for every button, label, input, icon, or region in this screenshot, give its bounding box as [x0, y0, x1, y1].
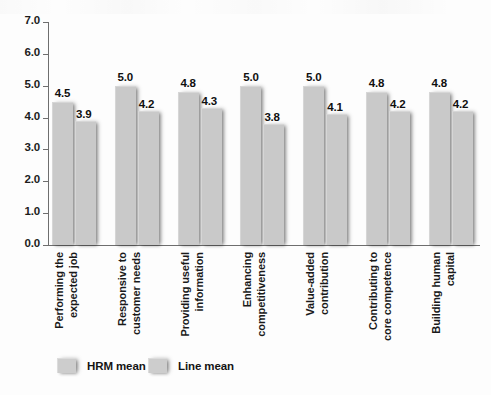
bar-value-label-line-mean: 4.1: [327, 101, 342, 113]
y-axis-tick: 7.0: [48, 22, 49, 23]
bar-group: 4.53.9: [52, 22, 98, 245]
y-axis-tick: 3.0: [48, 149, 49, 150]
bar-line-mean: [138, 111, 159, 245]
bar-line-mean: [75, 121, 96, 245]
y-axis-tick-label: 3.0: [25, 141, 40, 153]
x-axis-category-text: Building human capital: [430, 252, 457, 334]
bar-group: 4.84.3: [178, 22, 224, 245]
y-axis-tick-label: 5.0: [25, 78, 40, 90]
x-axis-category-text: Value-added contribution: [304, 252, 331, 316]
bar-hrm-mean: [303, 86, 324, 245]
y-axis-tick: 0.0: [48, 245, 49, 246]
bar-hrm-mean: [366, 92, 387, 245]
bar-line-mean: [452, 111, 473, 245]
x-axis-category-label: Value-added contribution: [304, 252, 348, 357]
bar-group: 5.04.2: [115, 22, 161, 245]
x-axis-category-label: Responsive to customer needs: [116, 252, 160, 357]
legend-swatch-hrm-mean: [57, 358, 76, 373]
legend-label-line-mean: Line mean: [178, 360, 234, 372]
bar-line-mean: [389, 111, 410, 245]
bar-group: 5.03.8: [240, 22, 286, 245]
bar-value-label-hrm-mean: 5.0: [115, 71, 136, 83]
bar-value-label-line-mean: 3.9: [76, 108, 91, 120]
chart-legend: HRM mean Line mean: [0, 358, 491, 388]
y-axis-tick-label: 4.0: [25, 110, 40, 122]
legend-item-hrm-mean: HRM mean: [57, 358, 146, 373]
bar-value-label-line-mean: 4.3: [202, 95, 217, 107]
bar-group: 4.84.2: [429, 22, 475, 245]
x-axis-category-text: Responsive to customer needs: [116, 252, 143, 335]
x-axis-category-label: Providing useful information: [179, 252, 223, 357]
bar-hrm-mean: [52, 102, 73, 245]
bar-line-mean: [326, 114, 347, 245]
y-axis-tick-mark: [43, 54, 49, 55]
x-axis-category-text: Performing the expected job: [53, 252, 80, 329]
y-axis-tick-mark: [43, 213, 49, 214]
plot-area: 0.01.02.03.04.05.06.07.0 4.53.95.04.24.8…: [48, 22, 480, 245]
y-axis-tick-label: 1.0: [25, 205, 40, 217]
y-axis-tick: 1.0: [48, 213, 49, 214]
y-axis-tick-mark: [43, 86, 49, 87]
bar-hrm-mean: [178, 92, 199, 245]
x-axis-category-label: Enhancing competitiveness: [241, 252, 285, 357]
y-axis-tick: 2.0: [48, 181, 49, 182]
bar-line-mean: [201, 108, 222, 245]
y-axis-tick-mark: [43, 149, 49, 150]
y-axis-tick-mark: [43, 181, 49, 182]
bar-value-label-line-mean: 4.2: [453, 98, 468, 110]
legend-item-line-mean: Line mean: [148, 358, 234, 373]
x-axis-category-text: Providing useful information: [179, 252, 206, 337]
y-axis-tick-mark: [43, 118, 49, 119]
bar-line-mean: [263, 124, 284, 245]
y-axis-tick: 6.0: [48, 54, 49, 55]
x-axis-line: [48, 245, 480, 246]
bar-hrm-mean: [115, 86, 136, 245]
legend-swatch-line-mean: [148, 358, 167, 373]
bar-value-label-line-mean: 4.2: [139, 98, 154, 110]
y-axis-tick-label: 7.0: [25, 14, 40, 26]
bar-hrm-mean: [429, 92, 450, 245]
bar-group: 5.04.1: [303, 22, 349, 245]
x-axis-category-text: Enhancing competitiveness: [241, 252, 268, 337]
bar-value-label-line-mean: 3.8: [264, 111, 279, 123]
x-axis-category-text: Contributing to core competence: [367, 252, 394, 341]
bar-chart: 0.01.02.03.04.05.06.07.0 4.53.95.04.24.8…: [0, 0, 491, 395]
y-axis-tick-mark: [43, 245, 49, 246]
legend-label-hrm-mean: HRM mean: [87, 360, 146, 372]
x-axis-category-label: Building human capital: [430, 252, 474, 357]
y-axis-line: [48, 22, 49, 245]
bar-value-label-hrm-mean: 4.8: [429, 77, 450, 89]
y-axis-tick: 5.0: [48, 86, 49, 87]
bar-value-label-hrm-mean: 4.8: [366, 77, 387, 89]
bar-value-label-hrm-mean: 4.8: [178, 77, 199, 89]
x-axis-category-label: Performing the expected job: [53, 252, 97, 357]
bar-value-label-hrm-mean: 4.5: [52, 87, 73, 99]
y-axis-tick: 4.0: [48, 118, 49, 119]
bar-hrm-mean: [240, 86, 261, 245]
y-axis-tick-label: 0.0: [25, 237, 40, 249]
bar-value-label-hrm-mean: 5.0: [303, 71, 324, 83]
y-axis-tick-label: 2.0: [25, 173, 40, 185]
bar-value-label-hrm-mean: 5.0: [240, 71, 261, 83]
bar-group: 4.84.2: [366, 22, 412, 245]
y-axis-tick-label: 6.0: [25, 46, 40, 58]
bar-value-label-line-mean: 4.2: [390, 98, 405, 110]
scan-artifact: [0, 0, 491, 14]
x-axis-category-label: Contributing to core competence: [367, 252, 411, 357]
y-axis-tick-mark: [43, 22, 49, 23]
